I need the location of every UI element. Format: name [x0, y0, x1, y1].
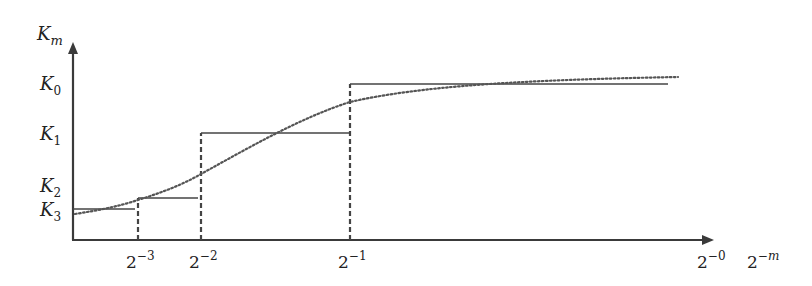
x-axis-label: 2−m [747, 249, 779, 272]
y-axis-label: Km [36, 23, 63, 48]
y-tick-k1: K1 [39, 123, 61, 148]
y-axis-arrow-icon [68, 42, 78, 54]
x-tick-2-1: 2−1 [338, 249, 367, 272]
diagram-canvas: Km K0 K1 K2 K3 2−3 2−2 2−1 2−0 2−m [0, 0, 812, 286]
dashed-verticals [138, 84, 350, 240]
y-tick-k0: K0 [39, 73, 61, 98]
step-approximation-diagram: Km K0 K1 K2 K3 2−3 2−2 2−1 2−0 2−m [0, 0, 812, 286]
y-tick-k3: K3 [39, 199, 61, 224]
continuous-curve [75, 77, 678, 214]
x-axis-arrow-icon [702, 235, 714, 245]
axes [68, 42, 714, 245]
y-tick-k2: K2 [39, 175, 61, 200]
x-tick-2-2: 2−2 [189, 249, 218, 272]
x-tick-2-0: 2−0 [697, 249, 726, 272]
step-levels [73, 84, 668, 209]
x-tick-2-3: 2−3 [126, 249, 155, 272]
